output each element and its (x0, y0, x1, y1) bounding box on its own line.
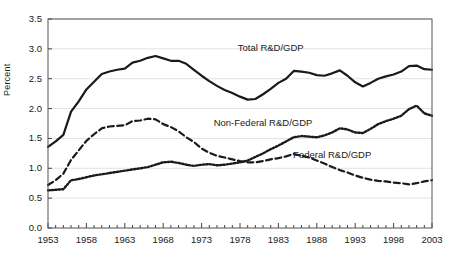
plot-area (0, 0, 452, 258)
series-label: Non-Federal R&D/GDP (214, 117, 313, 128)
series-line (48, 56, 432, 147)
series-line (48, 119, 432, 185)
series-label: Federal R&D/GDP (293, 149, 371, 160)
rd-gdp-line-chart: Percent 0.00.51.01.52.02.53.03.5 1953195… (0, 0, 452, 258)
series-label: Total R&D/GDP (238, 42, 304, 53)
